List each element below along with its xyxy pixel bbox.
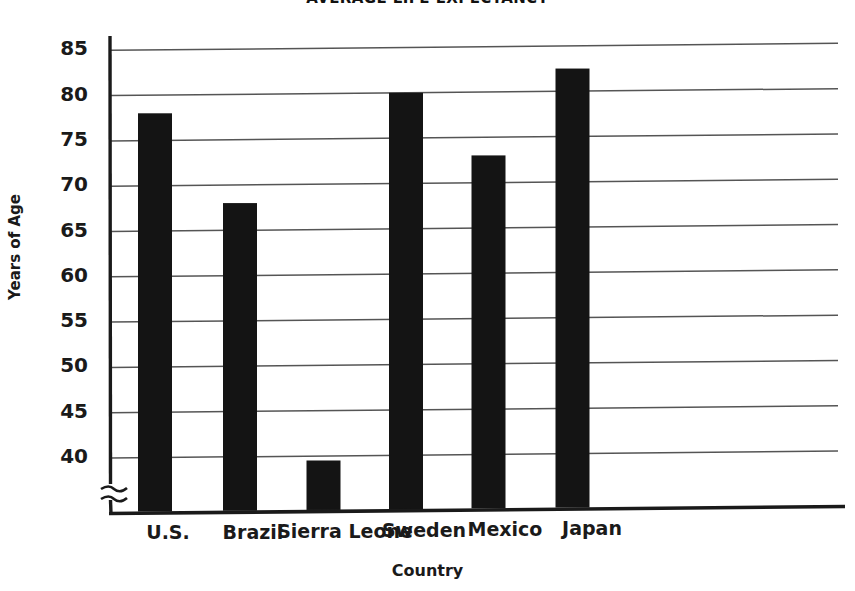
y-axis-line	[110, 36, 111, 484]
axis-break-icon-lower	[101, 497, 127, 502]
y-tick-label: 60	[28, 265, 88, 285]
gridline	[110, 134, 838, 141]
bar	[223, 203, 257, 511]
bar-chart: AVERAGE LIFE EXPECTANCY Years of Age Cou…	[0, 0, 855, 591]
y-tick-label: 65	[28, 220, 88, 240]
gridline	[110, 89, 838, 96]
y-tick-label: 45	[28, 401, 88, 421]
axis-break-icon	[101, 487, 127, 492]
bar	[556, 69, 590, 508]
x-tick-label: Japan	[512, 519, 672, 538]
y-tick-label: 40	[28, 446, 88, 466]
y-tick-label: 50	[28, 355, 88, 375]
gridline	[110, 43, 838, 50]
y-tick-label: 55	[28, 310, 88, 330]
y-tick-label: 70	[28, 174, 88, 194]
plot-area	[0, 0, 855, 591]
bar	[389, 93, 423, 509]
y-tick-label: 80	[28, 84, 88, 104]
bar	[472, 155, 506, 508]
y-tick-label: 75	[28, 129, 88, 149]
bar	[138, 113, 172, 511]
bar	[307, 460, 341, 509]
bars	[138, 69, 590, 512]
y-tick-label: 85	[28, 38, 88, 58]
